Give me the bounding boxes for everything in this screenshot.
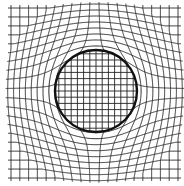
grid-line-horizontal [8, 178, 181, 181]
grid-line-horizontal [8, 169, 181, 175]
grid-line-horizontal [8, 4, 181, 8]
grid-line-vertical [19, 5, 28, 181]
grid-line-horizontal [8, 16, 181, 26]
grid-line-vertical [99, 2, 104, 50]
grid-transformation-diagram [0, 0, 184, 186]
grid-line-horizontal [8, 160, 181, 169]
grid-line-horizontal [137, 84, 184, 88]
grid-line-vertical [14, 5, 20, 181]
grid-line-vertical [178, 5, 182, 181]
diagram-canvas [0, 0, 184, 186]
grid-line-vertical [8, 5, 11, 181]
